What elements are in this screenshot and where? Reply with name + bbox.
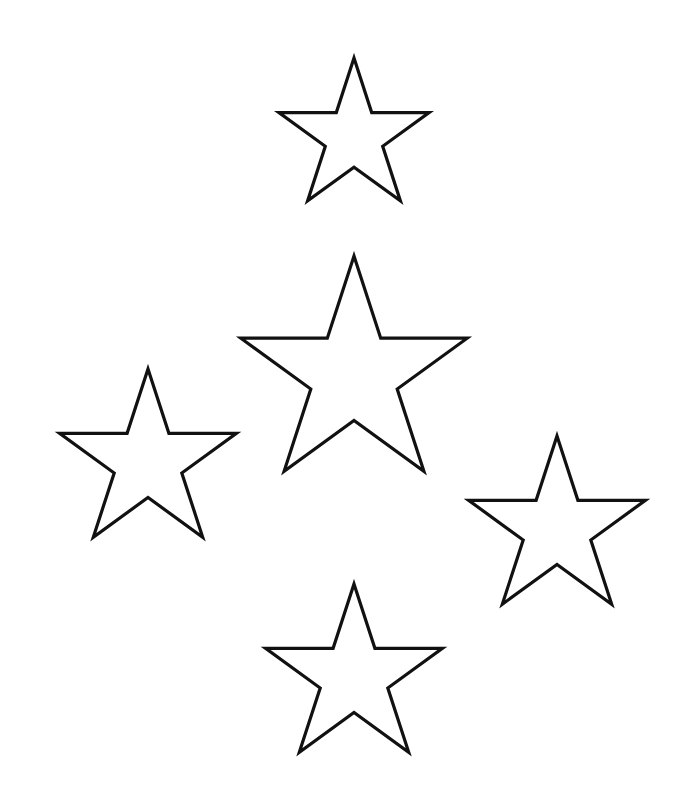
star-center-icon bbox=[241, 256, 467, 471]
star-bottom-icon bbox=[266, 584, 443, 752]
star-canvas bbox=[0, 0, 687, 791]
star-right-icon bbox=[469, 436, 646, 604]
star-left-icon bbox=[60, 369, 237, 537]
star-top-icon bbox=[279, 58, 429, 201]
